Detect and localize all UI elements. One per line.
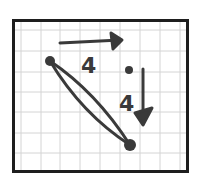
horizontal-distance-label: 4 [81,53,96,78]
start-point [45,56,55,66]
end-point [124,139,136,151]
corner-point [125,66,133,74]
vertical-distance-label: 4 [119,91,134,116]
grid-diagram: 4 4 [0,0,201,181]
